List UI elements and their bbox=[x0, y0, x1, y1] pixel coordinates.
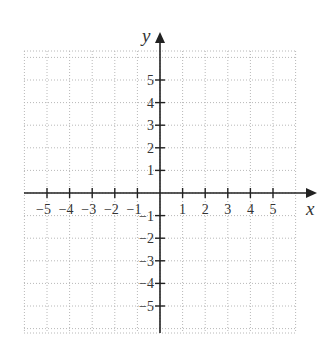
x-tick-label: 1 bbox=[179, 202, 186, 217]
x-tick-label: 3 bbox=[224, 202, 231, 217]
y-tick-label: 5 bbox=[147, 73, 154, 88]
y-tick-label: 1 bbox=[147, 163, 154, 178]
coordinate-plane: −5−4−3−2−112345−5−4−3−2−112345 x y bbox=[0, 0, 329, 341]
x-tick-label: −3 bbox=[81, 202, 96, 217]
x-tick-label: −2 bbox=[104, 202, 119, 217]
x-tick-label: 4 bbox=[247, 202, 254, 217]
x-tick-label: −5 bbox=[36, 202, 51, 217]
x-tick-label: −4 bbox=[59, 202, 74, 217]
y-tick-label: −1 bbox=[139, 209, 154, 224]
y-axis-arrow-icon bbox=[155, 32, 165, 43]
y-tick-label: 3 bbox=[147, 118, 154, 133]
x-tick-label: 5 bbox=[270, 202, 277, 217]
y-tick-label: 2 bbox=[147, 141, 154, 156]
y-tick-label: 4 bbox=[147, 96, 154, 111]
x-axis-arrow-icon bbox=[306, 188, 317, 198]
y-tick-label: −5 bbox=[139, 299, 154, 314]
y-axis-label: y bbox=[140, 25, 151, 46]
y-tick-label: −4 bbox=[139, 276, 154, 291]
y-tick-label: −2 bbox=[139, 231, 154, 246]
x-axis-label: x bbox=[305, 198, 315, 219]
x-tick-label: 2 bbox=[202, 202, 209, 217]
y-tick-label: −3 bbox=[139, 254, 154, 269]
axes bbox=[24, 32, 317, 333]
